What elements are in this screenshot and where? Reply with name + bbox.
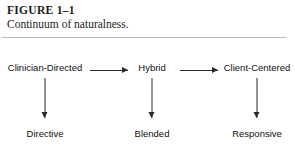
arrow-head-down-icon <box>254 112 260 118</box>
figure-container: FIGURE 1–1 Continuum of naturalness. Cli… <box>0 0 295 153</box>
arrow-right-clinician-to-hybrid <box>90 67 128 74</box>
arrow-right-hybrid-to-client-centered <box>180 67 218 74</box>
figure-caption: Continuum of naturalness. <box>7 18 129 30</box>
arrow-down-hybrid-to-blended <box>149 78 156 118</box>
continuum-diagram: Clinician-Directed Hybrid Client-Centere… <box>0 38 295 153</box>
node-client-centered: Client-Centered <box>224 62 291 73</box>
arrow-head-down-icon <box>42 112 48 118</box>
node-directive: Directive <box>27 128 64 139</box>
node-hybrid: Hybrid <box>138 62 165 73</box>
arrow-down-clinician-to-directive <box>42 78 49 118</box>
node-blended: Blended <box>135 128 170 139</box>
arrow-down-client-centered-to-responsive <box>254 78 261 118</box>
arrow-head-down-icon <box>149 112 155 118</box>
node-clinician-directed: Clinician-Directed <box>8 62 82 73</box>
arrow-head-right-icon <box>122 67 128 73</box>
arrow-head-right-icon <box>212 67 218 73</box>
figure-number: FIGURE 1–1 <box>7 4 75 16</box>
node-responsive: Responsive <box>232 128 282 139</box>
